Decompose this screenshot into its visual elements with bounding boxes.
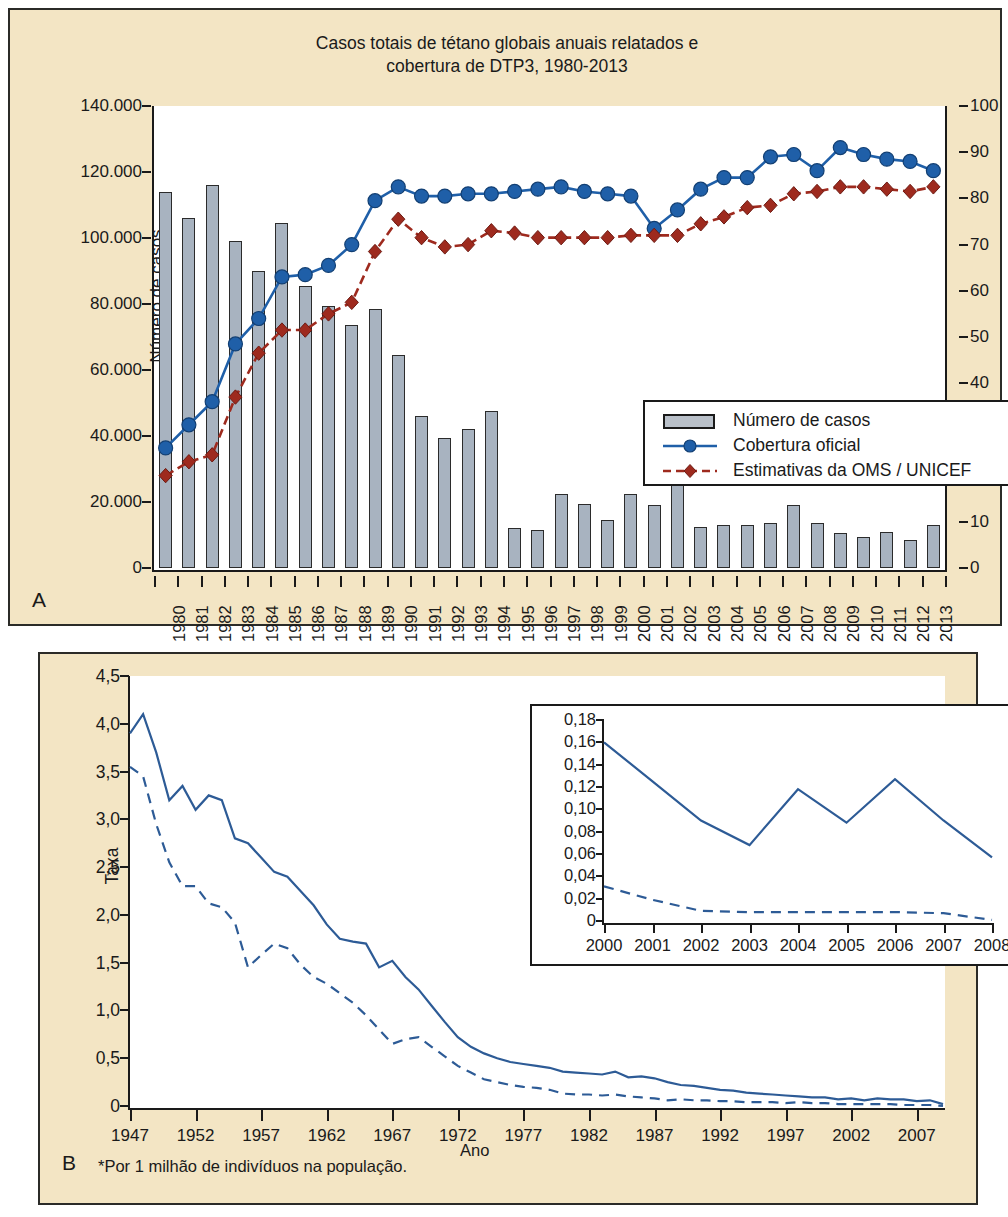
- x-axis-tick: [550, 576, 552, 587]
- y2-axis-tick-label: 90: [959, 142, 1008, 162]
- x-axis-tick-label: 1994: [495, 605, 514, 642]
- data-point-marker: [229, 390, 242, 404]
- panel-b-footnote: *Por 1 milhão de indivíduos na população…: [98, 1157, 407, 1176]
- data-point-marker: [206, 448, 219, 462]
- x-axis-tick: [154, 576, 156, 587]
- data-point-marker: [205, 395, 219, 409]
- chart-b-inset: 00,020,040,060,080,100,120,140,160,18 20…: [530, 704, 1008, 966]
- inset-y-axis-tick-label: 0,14: [516, 755, 596, 774]
- x-axis-tick: [786, 1110, 788, 1121]
- data-point-marker: [810, 164, 824, 178]
- data-point-marker: [391, 180, 405, 194]
- x-axis-tick: [720, 1110, 722, 1121]
- inset-series-line-mortes: [604, 886, 992, 920]
- x-axis-tick: [573, 576, 575, 587]
- x-axis-tick: [340, 576, 342, 587]
- x-axis-tick-label: 1977: [504, 1126, 542, 1146]
- x-axis-tick: [666, 576, 668, 587]
- x-axis-tick-label: 1982: [216, 605, 235, 642]
- x-axis-tick-label: 1998: [588, 605, 607, 642]
- data-point-marker: [299, 323, 312, 337]
- x-axis-tick-label: 2004: [728, 605, 747, 642]
- inset-x-axis-tick: [895, 925, 897, 933]
- data-point-marker: [461, 187, 475, 201]
- data-point-marker: [601, 230, 614, 244]
- chart-a-title: Casos totais de tétano globais anuais re…: [10, 32, 1004, 78]
- inset-x-axis-tick-label: 2008: [974, 936, 1008, 955]
- x-axis-tick-label: 1952: [177, 1126, 215, 1146]
- x-axis-tick: [433, 576, 435, 587]
- y2-axis-tick-label: 70: [959, 235, 1008, 255]
- inset-x-axis-tick-label: 2006: [877, 936, 914, 955]
- x-axis-tick-label: 2003: [705, 605, 724, 642]
- y2-axis-tick-label: 100: [959, 96, 1008, 116]
- inset-y-axis-tick-label: 0,16: [516, 732, 596, 751]
- x-axis-tick-label: 1983: [239, 605, 258, 642]
- y2-axis-tick-label: 60: [959, 281, 1008, 301]
- x-axis-tick: [589, 1110, 591, 1121]
- x-axis-tick: [759, 576, 761, 587]
- y-axis-tick-label: 0: [10, 1096, 120, 1117]
- x-axis-tick: [917, 1110, 919, 1121]
- x-axis-tick-label: 1992: [701, 1126, 739, 1146]
- x-axis-tick-label: 1987: [332, 605, 351, 642]
- data-point-marker: [601, 187, 615, 201]
- y-axis-tick-label: 120.000: [22, 162, 142, 182]
- dashed-diamond-swatch-icon: [659, 461, 721, 481]
- x-axis-tick: [224, 576, 226, 587]
- inset-x-axis-tick: [701, 925, 703, 933]
- x-axis-tick: [689, 576, 691, 587]
- inset-x-axis-tick: [992, 925, 994, 933]
- x-axis-tick-label: 1992: [449, 605, 468, 642]
- data-point-marker: [345, 238, 359, 252]
- x-axis-tick-label: 1995: [519, 605, 538, 642]
- x-axis-tick: [387, 576, 389, 587]
- inset-x-axis-tick-label: 2007: [925, 936, 962, 955]
- x-axis-tick: [655, 1110, 657, 1121]
- data-point-marker: [531, 230, 544, 244]
- x-axis-tick: [643, 576, 645, 587]
- data-point-marker: [345, 295, 358, 309]
- x-axis-tick: [177, 576, 179, 587]
- x-axis-tick: [201, 576, 203, 587]
- data-point-marker: [438, 240, 451, 254]
- legend-item-estimativas-oms-unicef: Estimativas da OMS / UNICEF: [659, 458, 1008, 483]
- x-axis-tick: [363, 576, 365, 587]
- x-axis-tick: [247, 576, 249, 587]
- y2-axis-tick-label: 40: [959, 373, 1008, 393]
- chart-a-title-line1: Casos totais de tétano globais anuais re…: [10, 32, 1004, 55]
- panel-b-label: B: [62, 1151, 76, 1175]
- data-point-marker: [438, 189, 452, 203]
- data-point-marker: [834, 180, 847, 194]
- y-axis-tick-label: 4,5: [10, 666, 120, 687]
- inset-y-axis-tick-label: 0,12: [516, 777, 596, 796]
- x-axis-tick-label: 1985: [286, 605, 305, 642]
- x-axis-tick: [392, 1110, 394, 1121]
- x-axis-tick-label: 1999: [612, 605, 631, 642]
- x-axis-tick: [456, 576, 458, 587]
- line-circle-swatch-icon: [659, 436, 721, 456]
- data-point-marker: [694, 182, 708, 196]
- x-axis-tick-label: 1947: [111, 1126, 149, 1146]
- chart-b-inset-lines: [604, 720, 992, 921]
- data-point-marker: [741, 200, 754, 214]
- inset-x-axis-tick-label: 2004: [780, 936, 817, 955]
- x-axis-tick: [898, 576, 900, 587]
- data-point-marker: [694, 217, 707, 231]
- data-point-marker: [275, 270, 289, 284]
- y-axis-tick-label: 1,0: [10, 1000, 120, 1021]
- x-axis-tick-label: 1997: [565, 605, 584, 642]
- data-point-marker: [717, 210, 730, 224]
- x-axis-tick-label: 1990: [402, 605, 421, 642]
- bar-swatch-icon: [659, 411, 721, 431]
- x-axis-tick-label: 2002: [681, 605, 700, 642]
- x-axis-tick: [410, 576, 412, 587]
- y2-axis-tick-label: 0: [959, 558, 1008, 578]
- y-axis-tick-label: 140.000: [22, 96, 142, 116]
- x-axis-tick: [523, 1110, 525, 1121]
- y2-axis-tick-label: 80: [959, 188, 1008, 208]
- inset-x-axis-tick-label: 2005: [828, 936, 865, 955]
- inset-x-axis-tick-label: 2001: [634, 936, 671, 955]
- data-point-marker: [508, 226, 521, 240]
- data-point-marker: [624, 228, 637, 242]
